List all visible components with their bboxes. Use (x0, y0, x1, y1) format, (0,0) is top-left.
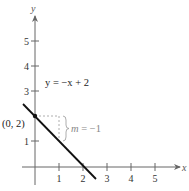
x-tick-label-3: 3 (105, 173, 110, 184)
y-tick-label-3: 3 (24, 86, 29, 97)
chart: x y 1 2 3 4 5 1 3 4 5 m = −1 (0, 2) y = … (0, 0, 189, 191)
y-axis-label: y (30, 3, 36, 14)
x-tick-label-2: 2 (81, 173, 86, 184)
y-tick-label-5: 5 (24, 36, 29, 47)
x-tick-label-1: 1 (57, 173, 62, 184)
y-tick-label-1: 1 (24, 136, 29, 147)
brace-icon (63, 116, 69, 141)
x-tick-label-4: 4 (129, 173, 134, 184)
point-label: (0, 2) (2, 118, 25, 130)
x-tick-label-5: 5 (153, 173, 158, 184)
x-axis-label: x (181, 162, 187, 173)
equation-label: y = −x + 2 (45, 77, 89, 88)
y-tick-label-4: 4 (24, 61, 29, 72)
slope-label: m = −1 (71, 123, 101, 134)
point-0-2 (33, 114, 37, 118)
slope-value: = −1 (79, 123, 101, 134)
